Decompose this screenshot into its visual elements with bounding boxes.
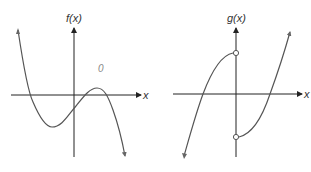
f-y-axis-label: f(x) — [66, 12, 82, 24]
g-left-start-arrow — [182, 153, 187, 159]
handwritten-annotation: 0 — [98, 63, 104, 74]
f-x-axis-label: x — [142, 89, 149, 101]
f-curve — [18, 30, 125, 156]
graph-f: f(x) x 0 — [11, 12, 149, 157]
f-curve-start-arrow — [16, 28, 20, 34]
g-open-circle-upper — [233, 50, 238, 55]
graph-g: g(x) x — [173, 12, 310, 159]
g-y-axis-label: g(x) — [227, 12, 246, 24]
g-right-branch — [239, 32, 290, 137]
g-open-circle-lower — [233, 134, 238, 139]
graphs-canvas: f(x) x 0 g(x) x — [0, 0, 311, 172]
g-left-branch — [184, 53, 233, 156]
g-x-axis-label: x — [303, 88, 310, 100]
